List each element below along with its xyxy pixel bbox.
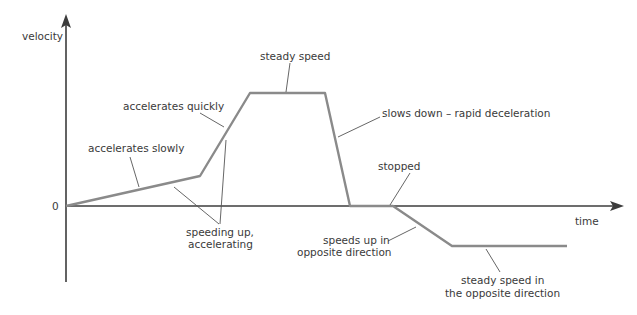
label-speeding-up-line1: speeding up, (186, 226, 254, 238)
label-opposite-line2: opposite direction (297, 246, 392, 258)
velocity-time-diagram: velocity time 0 steady speed accelerates… (0, 0, 637, 315)
label-accelerates-slowly: accelerates slowly (88, 142, 184, 154)
label-steady-opp-line2: the opposite direction (445, 287, 560, 299)
label-stopped: stopped (378, 160, 420, 172)
label-steady-speed: steady speed (260, 50, 330, 62)
label-accelerates-quickly: accelerates quickly (123, 100, 224, 112)
y-axis-label: velocity (22, 30, 63, 42)
label-steady-opp-line1: steady speed in (461, 274, 544, 286)
label-speeding-up-line2: accelerating (188, 238, 253, 250)
label-opposite-line1: speeds up in (323, 234, 390, 246)
label-slows-down: slows down – rapid deceleration (382, 107, 550, 119)
origin-label: 0 (52, 200, 59, 212)
x-axis-label: time (575, 215, 599, 227)
